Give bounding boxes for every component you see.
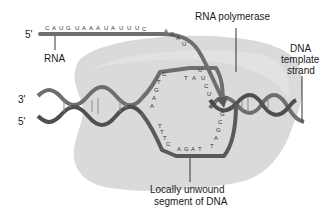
svg-text:G: G — [216, 127, 221, 133]
dna-3prime-label: 3' — [18, 94, 26, 105]
transcription-diagram: C A U G U A A A U A U U U C A G A U A A … — [0, 0, 336, 216]
svg-text:T: T — [210, 143, 214, 149]
svg-text:A: A — [82, 25, 86, 31]
dna-template-label-line1: DNA — [290, 43, 311, 54]
svg-text:A: A — [89, 25, 93, 31]
svg-text:A: A — [152, 95, 156, 101]
svg-text:G: G — [170, 31, 175, 37]
svg-text:C: C — [166, 141, 171, 147]
svg-text:A: A — [111, 25, 115, 31]
svg-text:A: A — [176, 35, 180, 41]
svg-text:G: G — [210, 99, 215, 105]
svg-text:U: U — [201, 75, 205, 81]
svg-text:U: U — [75, 25, 79, 31]
unwound-label-line2: segment of DNA — [154, 196, 228, 207]
svg-text:U: U — [135, 25, 139, 31]
unwound-label-line1: Locally unwound — [150, 184, 225, 195]
svg-text:A: A — [191, 146, 195, 152]
svg-text:C: C — [142, 26, 147, 32]
rna-polymerase-label: RNA polymerase — [195, 11, 270, 22]
rna-5prime-label: 5' — [25, 29, 33, 40]
dna-template-label-line2: template — [281, 54, 320, 65]
svg-text:G: G — [66, 25, 71, 31]
svg-text:C: C — [162, 71, 167, 77]
svg-text:A: A — [52, 25, 56, 31]
svg-text:U: U — [207, 91, 211, 97]
svg-text:U: U — [59, 25, 63, 31]
svg-text:C: C — [45, 25, 50, 31]
svg-text:A: A — [192, 75, 196, 81]
dna-template-label-line3: strand — [287, 65, 315, 76]
rna-label: RNA — [44, 53, 65, 64]
svg-text:T: T — [184, 75, 188, 81]
svg-text:A: A — [96, 25, 100, 31]
svg-text:U: U — [198, 67, 202, 73]
svg-text:U: U — [104, 25, 108, 31]
svg-text:U: U — [127, 25, 131, 31]
svg-text:A: A — [214, 135, 218, 141]
svg-text:G: G — [220, 111, 225, 117]
svg-text:A: A — [150, 103, 154, 109]
svg-text:G: G — [154, 87, 159, 93]
svg-text:A: A — [164, 28, 168, 34]
dna-5prime-label: 5' — [18, 116, 26, 127]
svg-text:C: C — [204, 83, 209, 89]
svg-text:U: U — [182, 41, 186, 47]
svg-text:A: A — [177, 146, 181, 152]
svg-text:U: U — [119, 25, 123, 31]
svg-text:G: G — [184, 146, 189, 152]
svg-text:T: T — [198, 146, 202, 152]
svg-text:T: T — [157, 79, 161, 85]
svg-text:C: C — [218, 119, 223, 125]
